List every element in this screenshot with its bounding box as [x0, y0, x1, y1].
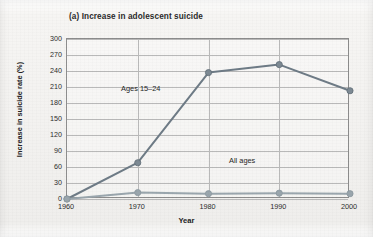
figure-panel: (a) Increase in adolescent suicide Incre… [0, 0, 373, 237]
y-tick-label: 30 [20, 178, 62, 187]
x-tick-label: 1970 [114, 202, 160, 211]
x-tick-label: 1980 [185, 202, 231, 211]
x-tick-label: 2000 [326, 202, 372, 211]
data-point-marker [135, 190, 141, 196]
data-point-marker [276, 190, 282, 196]
series-line-ages-15-24 [67, 65, 350, 199]
series-lines [67, 39, 350, 199]
series-label-ages-15-24: Ages 15–24 [121, 84, 160, 93]
data-point-marker [205, 70, 211, 76]
series-label-all-ages: All ages [229, 156, 255, 165]
chart-title: (a) Increase in adolescent suicide [69, 12, 203, 21]
y-tick-label: 120 [20, 130, 62, 139]
y-tick-label: 60 [20, 162, 62, 171]
x-tick-label: 1990 [255, 202, 301, 211]
data-point-marker [276, 62, 282, 68]
y-tick-label: 210 [20, 82, 62, 91]
x-tick-label: 1960 [43, 202, 89, 211]
y-tick-label: 180 [20, 98, 62, 107]
y-tick-label: 240 [20, 66, 62, 75]
data-point-marker [135, 160, 141, 166]
y-tick-label: 270 [20, 50, 62, 59]
y-tick-label: 300 [20, 34, 62, 43]
data-point-marker [205, 191, 211, 197]
data-point-marker [347, 191, 353, 197]
y-tick-label: 150 [20, 114, 62, 123]
gridline-horizontal [67, 199, 348, 200]
data-point-marker [347, 88, 353, 94]
plot-area [66, 38, 349, 198]
y-tick-label: 90 [20, 146, 62, 155]
x-axis-title: Year [0, 216, 373, 225]
